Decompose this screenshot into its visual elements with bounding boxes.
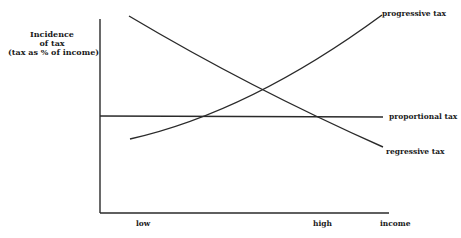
proportional-tax-label: proportional tax [389, 112, 457, 121]
progressive-tax-label: progressive tax [382, 9, 446, 18]
y-axis-label: Incidence of tax (tax as % of income) [8, 30, 96, 57]
tax-incidence-diagram: Incidence of tax (tax as % of income) pr… [0, 0, 461, 238]
x-axis-label: income [380, 219, 411, 228]
regressive-tax-label: regressive tax [386, 147, 445, 156]
proportional-tax-line [100, 116, 383, 117]
x-tick-low: low [136, 219, 150, 228]
regressive-tax-line [129, 16, 383, 147]
y-axis-label-line3: (tax as % of income) [8, 48, 96, 57]
x-tick-high: high [313, 219, 332, 228]
progressive-tax-line [130, 15, 382, 139]
